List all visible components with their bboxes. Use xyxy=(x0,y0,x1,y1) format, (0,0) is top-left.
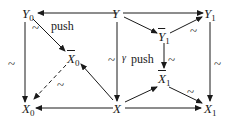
arrow-Y1bar-to-Y1 xyxy=(170,17,202,33)
tilde-Y1bar-Y1: ~ xyxy=(190,24,197,37)
tilde-Y0-X0bar: ~ xyxy=(32,21,39,34)
label-push-left: push xyxy=(51,20,74,32)
arrow-X-to-X0bar xyxy=(81,64,113,100)
tilde-X1bar-X1: ~ xyxy=(187,85,194,98)
node-X0: X0 xyxy=(22,102,34,115)
arrow-X1bar-to-X1 xyxy=(169,87,202,103)
label-push-mid: push xyxy=(131,53,154,65)
node-Y1bar: Y1 xyxy=(158,30,170,43)
tilde-Y1bar-X1bar: ~ xyxy=(168,53,175,66)
node-Y0: Y0 xyxy=(22,7,34,20)
label-gamma: γ xyxy=(122,53,126,63)
arrow-Y-to-Y1bar xyxy=(124,17,157,33)
node-X0bar: X0 xyxy=(67,52,79,65)
node-X: X xyxy=(113,102,121,115)
node-X1: X1 xyxy=(204,102,216,115)
tilde-Y0-X0: ~ xyxy=(8,57,15,70)
node-X1bar: X1 xyxy=(158,72,170,85)
node-Y1: Y1 xyxy=(204,7,216,20)
arrow-X-to-X1bar xyxy=(125,87,157,102)
tilde-Y-X: ~ xyxy=(108,53,115,66)
tilde-Y1-X1: ~ xyxy=(214,57,221,70)
tilde-X0bar-X0: ~ xyxy=(57,78,64,91)
commutative-diagram: Y0 Y Y1 Y1 X0 X1 X0 X X1 push push γ ~ ~… xyxy=(0,0,233,119)
node-Y: Y xyxy=(112,7,119,20)
